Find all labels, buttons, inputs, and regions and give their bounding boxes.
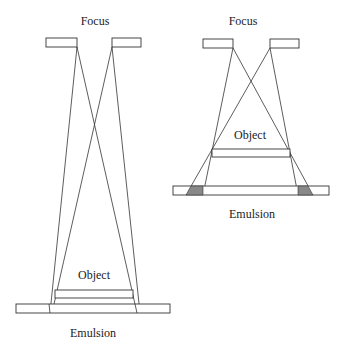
left-emulsion-label: Emulsion	[70, 326, 116, 340]
left-focus-label: Focus	[81, 14, 110, 28]
right-object-label: Object	[234, 128, 267, 142]
right-focus-spot-2	[270, 39, 299, 48]
left-diagram: Focus Object Emulsion	[16, 14, 170, 340]
left-object-label: Object	[78, 268, 111, 282]
right-emulsion-label: Emulsion	[229, 207, 275, 221]
left-object	[55, 290, 133, 298]
geometric-unsharpness-diagram: Focus Object Emulsion Focus Object	[0, 0, 342, 348]
right-diagram: Focus Object Emulsion	[173, 14, 329, 221]
right-focus-label: Focus	[229, 14, 258, 28]
right-rays	[186, 48, 313, 195]
left-focus-spot-1	[46, 38, 77, 47]
left-emulsion	[16, 304, 170, 313]
right-focus-spot-1	[203, 39, 233, 48]
left-focus-spot-2	[112, 38, 141, 47]
right-object	[212, 149, 290, 157]
